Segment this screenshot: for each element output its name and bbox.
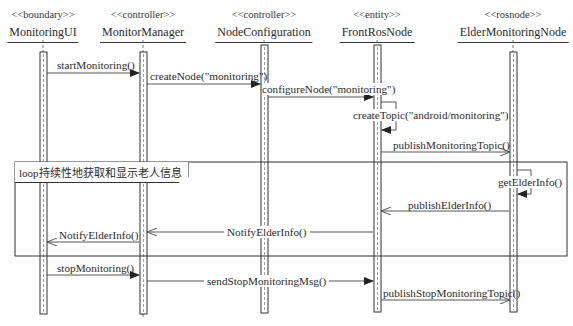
loop-fragment-label: loop持续性地获取和显示老人信息 (15, 162, 189, 183)
label-notify-elder-info-1: NotifyElderInfo() (224, 226, 310, 238)
label-create-topic: createTopic("android/monitoring") (353, 109, 509, 121)
label-send-stop-monitoring: sendStopMonitoringMsg() (204, 275, 329, 287)
label-get-elder-info: getElderInfo() (498, 176, 562, 188)
label-notify-elder-info-2: NotifyElderInfo() (59, 229, 139, 241)
label-stop-monitoring: stopMonitoring() (57, 262, 134, 274)
label-publish-elder-info: publishElderInfo() (408, 199, 491, 211)
label-configure-node: configureNode("monitoring") (262, 83, 395, 95)
label-publish-stop-monitoring-topic: publishStopMonitoringTopic() (383, 287, 520, 299)
label-start-monitoring: startMonitoring() (57, 59, 135, 71)
label-publish-monitoring-topic: publishMonitoringTopic() (393, 139, 510, 151)
label-create-node: createNode("monitoring") (150, 70, 267, 82)
